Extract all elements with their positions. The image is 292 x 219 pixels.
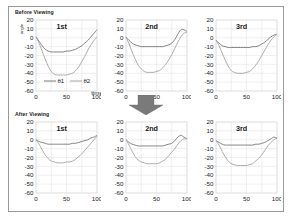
- panel-title: 2nd: [145, 124, 158, 133]
- y-tick-label: -30: [25, 163, 35, 170]
- y-tick-label: 10: [207, 127, 214, 134]
- y-tick-label: 0: [210, 34, 214, 41]
- plot-area: 20100-10-20-30-40-50-600501003rd: [193, 118, 281, 208]
- y-tick-label: -30: [205, 61, 215, 68]
- y-tick-label: -40: [115, 69, 125, 76]
- panel-row-after: 20100-10-20-30-40-50-600501001st 20100-1…: [9, 118, 283, 208]
- y-tick-label: -50: [205, 78, 215, 85]
- y-tick-label: -20: [25, 52, 35, 59]
- y-tick-label: 20: [27, 118, 34, 125]
- chart-panel-before-3rd: 20100-10-20-30-40-50-600501003rd: [193, 16, 281, 106]
- y-tick-label: -30: [115, 61, 125, 68]
- y-tick-label: -10: [115, 43, 125, 50]
- y-tick-label: -30: [25, 61, 35, 68]
- chart-panel-before-2nd: 20100-10-20-30-40-50-600501002nd: [103, 16, 191, 106]
- x-tick-label: 0: [124, 195, 128, 202]
- y-tick-label: -40: [25, 69, 35, 76]
- y-tick-label: -20: [115, 154, 125, 161]
- chart-panel-before-1st: 20100-10-20-30-40-50-600501001stangletim…: [13, 16, 101, 106]
- x-tick-label: 100: [92, 195, 101, 202]
- x-tick-label: 50: [153, 195, 160, 202]
- y-tick-label: 10: [117, 127, 124, 134]
- section-after-viewing: After Viewing 20100-10-20-30-40-50-60050…: [9, 111, 283, 209]
- y-tick-label: 0: [30, 136, 34, 143]
- y-tick-label: -10: [25, 145, 35, 152]
- x-tick-label: 50: [243, 195, 250, 202]
- y-axis-label: angle: [19, 23, 24, 34]
- plot-area: 20100-10-20-30-40-50-600501001st: [13, 118, 101, 208]
- y-tick-label: -20: [205, 52, 215, 59]
- y-tick-label: -10: [115, 145, 125, 152]
- y-tick-label: -40: [205, 171, 215, 178]
- y-tick-label: 20: [207, 118, 214, 125]
- section-before-viewing: Before Viewing 20100-10-20-30-40-50-6005…: [9, 9, 283, 107]
- y-tick-label: -20: [205, 154, 215, 161]
- y-tick-label: -20: [25, 154, 35, 161]
- y-tick-label: 0: [120, 34, 124, 41]
- figure-container: Before Viewing 20100-10-20-30-40-50-6005…: [8, 6, 284, 212]
- section-title-before: Before Viewing: [15, 9, 54, 15]
- y-tick-label: 0: [120, 136, 124, 143]
- chart-panel-after-3rd: 20100-10-20-30-40-50-600501003rd: [193, 118, 281, 208]
- y-tick-label: 10: [117, 25, 124, 32]
- y-tick-label: -40: [115, 171, 125, 178]
- y-tick-label: -50: [25, 78, 35, 85]
- legend-label-theta1: θ1: [58, 78, 65, 84]
- y-tick-label: -60: [205, 87, 215, 94]
- y-tick-label: -10: [205, 145, 215, 152]
- panel-title: 3rd: [236, 22, 247, 31]
- x-tick-label: 100: [182, 195, 191, 202]
- y-tick-label: -20: [115, 52, 125, 59]
- panel-title: 2nd: [145, 22, 158, 31]
- plot-area: 20100-10-20-30-40-50-600501002nd: [103, 16, 191, 106]
- y-tick-label: -50: [115, 180, 125, 187]
- section-title-after: After Viewing: [15, 111, 49, 117]
- y-tick-label: -60: [115, 87, 125, 94]
- y-tick-label: -30: [205, 163, 215, 170]
- panel-title: 3rd: [236, 124, 247, 133]
- plot-area: 20100-10-20-30-40-50-600501001stangletim…: [13, 16, 101, 106]
- y-tick-label: 10: [207, 25, 214, 32]
- panel-title: 1st: [56, 22, 67, 31]
- x-tick-label: 0: [214, 195, 218, 202]
- y-tick-label: 0: [30, 34, 34, 41]
- y-tick-label: -60: [25, 189, 35, 196]
- chart-panel-after-2nd: 20100-10-20-30-40-50-600501002nd: [103, 118, 191, 208]
- y-tick-label: 20: [207, 16, 214, 23]
- y-tick-label: -30: [115, 163, 125, 170]
- y-tick-label: 20: [117, 16, 124, 23]
- y-tick-label: -40: [205, 69, 215, 76]
- y-tick-label: -50: [25, 180, 35, 187]
- legend-label-theta2: θ2: [84, 78, 91, 84]
- plot-area: 20100-10-20-30-40-50-600501002nd: [103, 118, 191, 208]
- y-tick-label: 0: [210, 136, 214, 143]
- y-tick-label: -50: [115, 78, 125, 85]
- x-tick-label: 0: [34, 195, 38, 202]
- y-tick-label: -10: [205, 43, 215, 50]
- y-tick-label: 20: [27, 16, 34, 23]
- y-tick-label: -50: [205, 180, 215, 187]
- y-tick-label: -60: [25, 87, 35, 94]
- x-tick-label: 100: [272, 195, 281, 202]
- y-tick-label: 10: [27, 127, 34, 134]
- chart-panel-after-1st: 20100-10-20-30-40-50-600501001st: [13, 118, 101, 208]
- panel-row-before: 20100-10-20-30-40-50-600501001stangletim…: [9, 16, 283, 106]
- panel-title: 1st: [56, 124, 67, 133]
- y-tick-label: 10: [27, 25, 34, 32]
- y-tick-label: -10: [25, 43, 35, 50]
- y-tick-label: -40: [25, 171, 35, 178]
- y-tick-label: 20: [117, 118, 124, 125]
- x-tick-label: 50: [63, 195, 70, 202]
- y-tick-label: -60: [115, 189, 125, 196]
- plot-area: 20100-10-20-30-40-50-600501003rd: [193, 16, 281, 106]
- y-tick-label: -60: [205, 189, 215, 196]
